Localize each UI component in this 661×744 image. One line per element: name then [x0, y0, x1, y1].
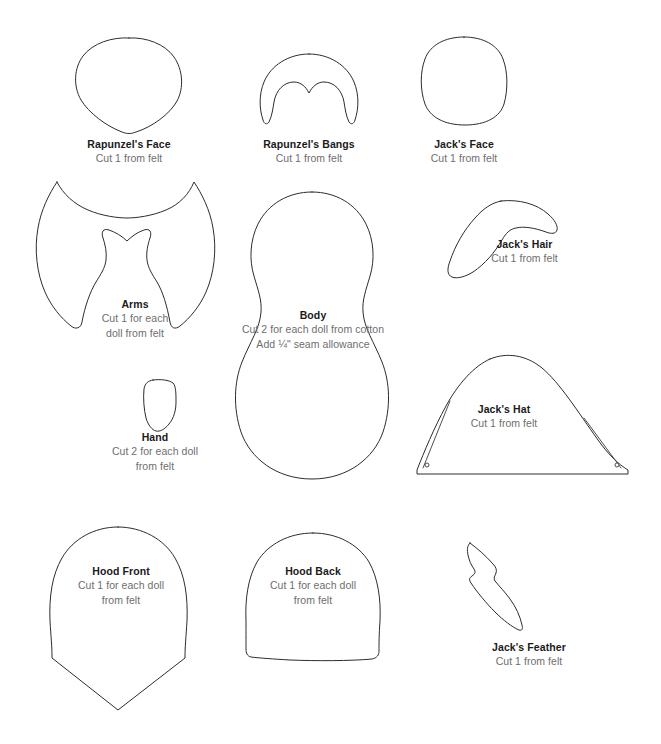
pattern-piece-jacks-feather[interactable]: [462, 540, 532, 633]
piece-instruction: from felt: [57, 593, 185, 607]
piece-title: Rapunzel's Face: [0, 137, 258, 151]
label-hood-front: Hood Front Cut 1 for each doll from felt: [57, 564, 185, 607]
label-hood-back: Hood Back Cut 1 for each doll from felt: [249, 564, 377, 607]
label-jacks-face: Jack's Face Cut 1 from felt: [397, 137, 531, 166]
piece-instruction: Cut 1 from felt: [0, 151, 258, 165]
pattern-piece-hand[interactable]: [142, 378, 178, 434]
piece-title: Arms: [76, 297, 194, 311]
label-arms: Arms Cut 1 for each doll from felt: [76, 297, 194, 340]
piece-instruction: Cut 1 from felt: [462, 251, 587, 265]
piece-instruction: Cut 1 for each: [76, 311, 194, 325]
piece-instruction: Cut 1 for each doll: [249, 578, 377, 592]
piece-instruction: Cut 2 for each doll: [90, 444, 220, 458]
label-hand: Hand Cut 2 for each doll from felt: [90, 430, 220, 473]
piece-title: Jack's Hat: [409, 402, 599, 416]
label-rapunzels-face: Rapunzel's Face Cut 1 from felt: [0, 137, 258, 166]
pattern-sheet: Rapunzel's Face Cut 1 from felt Rapunzel…: [0, 0, 661, 744]
pattern-piece-rapunzels-bangs[interactable]: [259, 52, 359, 128]
pattern-piece-rapunzels-face[interactable]: [70, 35, 188, 135]
label-rapunzels-bangs: Rapunzel's Bangs Cut 1 from felt: [234, 137, 384, 166]
label-jacks-feather: Jack's Feather Cut 1 from felt: [404, 640, 654, 669]
piece-title: Hand: [90, 430, 220, 444]
piece-instruction: from felt: [249, 593, 377, 607]
piece-instruction: Add ¼" seam allowance: [231, 337, 395, 351]
piece-instruction: Cut 1 from felt: [404, 654, 654, 668]
piece-title: Body: [231, 308, 395, 322]
piece-instruction: from felt: [90, 459, 220, 473]
piece-title: Hood Back: [249, 564, 377, 578]
piece-instruction: Cut 1 for each doll: [57, 578, 185, 592]
piece-title: Jack's Face: [397, 137, 531, 151]
label-body: Body Cut 2 for each doll from cotton Add…: [231, 308, 395, 351]
piece-instruction: doll from felt: [76, 326, 194, 340]
piece-instruction: Cut 1 from felt: [397, 151, 531, 165]
pattern-piece-hood-front[interactable]: [47, 525, 190, 713]
piece-instruction: Cut 1 from felt: [234, 151, 384, 165]
piece-instruction: Cut 1 from felt: [409, 416, 599, 430]
label-jacks-hair: Jack's Hair Cut 1 from felt: [462, 237, 587, 266]
piece-title: Jack's Hair: [462, 237, 587, 251]
piece-instruction: Cut 2 for each doll from cotton: [231, 322, 395, 336]
piece-title: Rapunzel's Bangs: [234, 137, 384, 151]
piece-title: Hood Front: [57, 564, 185, 578]
label-jacks-hat: Jack's Hat Cut 1 from felt: [409, 402, 599, 431]
pattern-piece-jacks-face[interactable]: [419, 35, 509, 127]
piece-title: Jack's Feather: [404, 640, 654, 654]
